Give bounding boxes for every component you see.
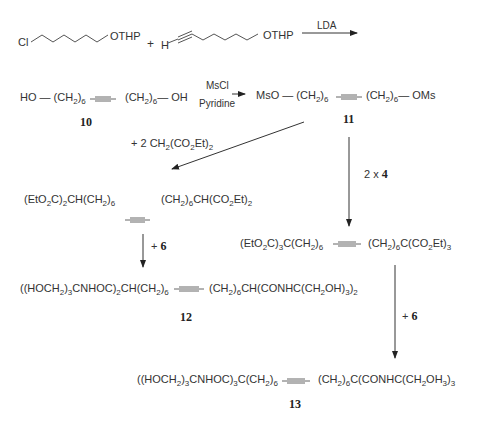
othp-label-b: OTHP — [263, 30, 294, 41]
t: (EtO — [24, 193, 47, 205]
t: ((HOCH — [20, 282, 60, 294]
sub: 2 — [353, 288, 357, 297]
sub: 6 — [164, 288, 168, 297]
t: CH(CONHC(CH — [241, 282, 320, 294]
c11-left: MsO — (CH — [256, 89, 316, 101]
t: C(CONHC(CH — [350, 373, 422, 385]
reagent-2x4: 2 x 4 — [364, 168, 388, 180]
t: C(CH — [238, 373, 266, 385]
t: (CH — [368, 237, 388, 249]
compound-12-formula-left: ((HOCH2)3CNHOC)2CH(CH2)6 — [20, 283, 169, 294]
scheme-graphics — [0, 0, 479, 424]
t: Et) — [433, 237, 447, 249]
t: CNHOC) — [72, 282, 116, 294]
reagent-plus-6-left: + 6 — [151, 240, 167, 252]
sub: 2 — [248, 199, 252, 208]
t: (CH — [161, 193, 181, 205]
sub: 6 — [273, 379, 277, 388]
label-compound-ref: 6 — [412, 309, 418, 323]
t: C) — [267, 237, 279, 249]
reagent-plus-6-right: + 6 — [402, 310, 418, 322]
t: CH(CO — [193, 193, 229, 205]
sub: 6 — [319, 243, 323, 252]
label-prefix: + — [151, 240, 157, 252]
c10-right: (CH — [125, 91, 145, 103]
sub: 6 — [81, 97, 85, 106]
compound-13-label: 13 — [289, 398, 301, 410]
triester-formula-right: (CH2)6C(CO2Et)3 — [368, 238, 451, 249]
t: C) — [51, 193, 63, 205]
t: CH(CH — [121, 282, 156, 294]
c11-oms: — OMs — [398, 89, 435, 101]
triester-formula-left: (EtO2C)3C(CH2)6 — [240, 238, 323, 249]
compound-12-label: 12 — [180, 311, 192, 323]
t: C(CH — [283, 237, 311, 249]
plus-sign: + — [147, 38, 154, 50]
diester-formula-right: (CH2)6CH(CO2Et)2 — [161, 194, 252, 205]
mal-3: Et) — [195, 137, 209, 149]
t: OH) — [325, 282, 345, 294]
reagent-mscl: MsCl — [206, 81, 229, 91]
diester-formula-left: (EtO2C)2CH(CH2)6 — [24, 194, 115, 205]
label-prefix: + — [402, 310, 408, 322]
compound-13-formula-left: ((HOCH2)3CNHOC)3C(CH2)6 — [137, 374, 278, 385]
hydrogen-label: H — [161, 40, 169, 51]
c10-left: HO — (CH — [20, 91, 73, 103]
sub: 2 — [209, 143, 213, 152]
t: OH — [426, 373, 443, 385]
compound-13-formula-right: (CH2)6C(CONHC(CH2OH3)3 — [318, 374, 455, 385]
t: CH(CH — [67, 193, 102, 205]
compound-10-formula-right: (CH2)6— OH — [125, 92, 188, 103]
compound-11-formula: MsO — (CH2)6 — [256, 90, 328, 101]
othp-label-a: OTHP — [110, 31, 141, 42]
chloro-chain-bond — [31, 35, 108, 42]
sub: 6 — [111, 199, 115, 208]
sub: 3 — [447, 243, 451, 252]
t: (EtO — [240, 237, 263, 249]
c10-oh: — OH — [157, 91, 188, 103]
label-compound-ref: 6 — [161, 239, 167, 253]
label-compound-ref: 4 — [382, 167, 388, 181]
t: ((HOCH — [137, 373, 177, 385]
compound-12-formula-right: (CH2)6CH(CONHC(CH2OH)3)2 — [209, 283, 358, 294]
mal-2: (CO — [170, 137, 190, 149]
compound-11-label: 11 — [343, 113, 354, 125]
mal-1: + 2 CH — [131, 137, 166, 149]
compound-10-label: 10 — [80, 116, 92, 128]
chlorine-label: Cl — [18, 37, 28, 48]
c11-right: (CH — [366, 89, 386, 101]
t: (CH — [318, 373, 338, 385]
compound-10-formula: HO — (CH2)6 — [20, 92, 86, 103]
t: (CH — [209, 282, 229, 294]
sub: 6 — [324, 95, 328, 104]
sub: 3 — [451, 379, 455, 388]
t: C(CO — [400, 237, 428, 249]
malonate-reagent: + 2 CH2(CO2Et)2 — [131, 138, 213, 149]
reagent-lda: LDA — [317, 21, 336, 31]
t: CNHOC) — [189, 373, 233, 385]
t: Et) — [234, 193, 248, 205]
reagent-pyridine: Pyridine — [199, 99, 235, 109]
label-prefix: 2 x — [364, 168, 379, 180]
compound-11-formula-right: (CH2)6— OMs — [366, 90, 435, 101]
